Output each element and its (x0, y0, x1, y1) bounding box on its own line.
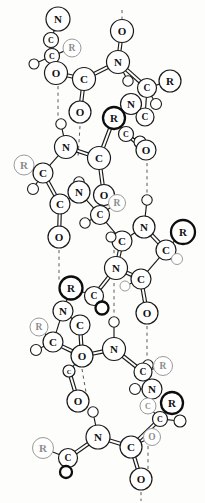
atom-r: R (103, 107, 125, 129)
atom-circle (171, 220, 195, 244)
atom-c: C (73, 68, 96, 91)
atom-circle (67, 390, 89, 412)
atom-circle (29, 59, 39, 69)
atom-hydrogen (109, 317, 119, 327)
atom-circle (144, 429, 161, 446)
atom-circle (33, 438, 54, 459)
atom-circle (133, 216, 155, 238)
atom-hydrogen (120, 281, 130, 291)
atom-c: C (43, 332, 63, 352)
atom-c: C (131, 269, 151, 289)
atom-c: C (134, 363, 152, 381)
atom-o: O (67, 390, 89, 412)
atom-circle (103, 107, 125, 129)
atom-circle (45, 62, 68, 85)
atom-circle (56, 119, 66, 129)
atom-circle (109, 195, 126, 212)
atom-circle (55, 136, 78, 159)
atom-c: C (136, 108, 154, 126)
atom-n: N (68, 181, 90, 203)
atom-r: R (109, 195, 126, 212)
atom-hydrogen (29, 59, 39, 69)
atom-hydrogen (88, 407, 98, 417)
atom-circle (44, 33, 59, 48)
atom-circle (80, 218, 90, 228)
atom-circle (174, 415, 186, 427)
atom-circle (136, 140, 156, 160)
atom-circle (53, 301, 73, 321)
atom-circle (43, 332, 63, 352)
atom-r: R (154, 357, 173, 376)
atom-circle (91, 206, 110, 225)
atom-circle (73, 68, 96, 91)
atom-hydrogen (151, 99, 162, 110)
atom-circle (96, 302, 109, 315)
atom-circle (46, 7, 70, 31)
atom-circle (70, 315, 90, 335)
atom-c: C (44, 33, 59, 48)
atom-c: C (70, 315, 90, 335)
atom-hydrogen (28, 184, 39, 195)
atom-circle (140, 398, 156, 414)
atom-hydrogen (142, 195, 152, 205)
atom-circle (153, 412, 168, 427)
atom-circle (105, 257, 128, 280)
atom-circle (172, 254, 183, 265)
atom-circle (60, 466, 72, 478)
atom-o: O (69, 101, 91, 123)
atom-hydrogen (80, 218, 90, 228)
atom-c: C (63, 365, 75, 377)
atom-circle (59, 449, 78, 468)
atom-hydrogen (96, 302, 109, 315)
atom-circle (142, 379, 162, 399)
atom-hydrogen (123, 76, 133, 86)
atom-r: R (33, 438, 54, 459)
atom-circle (120, 281, 130, 291)
atom-r: R (14, 155, 34, 175)
atom-o: O (48, 226, 70, 248)
atom-hydrogen (172, 254, 183, 265)
atom-circle (71, 345, 93, 367)
atom-n: N (107, 51, 130, 74)
atom-n: N (105, 257, 128, 280)
atom-hydrogen (130, 384, 141, 395)
atom-circle (31, 345, 42, 356)
atom-circle (50, 194, 70, 214)
atom-o: O (144, 429, 161, 446)
atom-n: N (142, 379, 162, 399)
atom-circle (69, 101, 91, 123)
atom-circle (136, 108, 154, 126)
atom-circle (60, 277, 83, 300)
atom-hydrogen (60, 466, 72, 478)
atom-circle (111, 20, 134, 43)
atom-circle (123, 76, 133, 86)
atom-circle (63, 39, 81, 57)
atom-circle (88, 407, 98, 417)
atom-circle (109, 317, 119, 327)
atom-circle (103, 338, 126, 361)
atom-hydrogen (31, 345, 42, 356)
atom-circle (134, 363, 152, 381)
atom-n: N (86, 425, 110, 449)
atom-circle (33, 163, 53, 183)
atom-circle (136, 302, 158, 324)
atom-circle (68, 181, 90, 203)
atom-o: O (130, 468, 152, 490)
atom-r: R (161, 392, 183, 414)
atom-o: O (136, 302, 158, 324)
atom-hydrogen (174, 415, 186, 427)
atom-r: R (63, 39, 81, 57)
atom-c: C (138, 79, 157, 98)
alpha-helix-structure-figure: NCRCOCOONCRNRCCONCRCNCORCOCNRCNCRCNOCRCO… (0, 0, 205, 503)
atom-circle (48, 226, 70, 248)
atom-circle (159, 70, 181, 92)
atom-circle (142, 195, 152, 205)
atom-o: O (136, 140, 156, 160)
atom-circle (130, 384, 141, 395)
atom-n: N (103, 338, 126, 361)
atom-o: O (45, 62, 68, 85)
atom-circle (119, 127, 134, 142)
atom-hydrogen (56, 119, 66, 129)
atom-r: R (30, 318, 48, 336)
atom-n: N (55, 136, 78, 159)
